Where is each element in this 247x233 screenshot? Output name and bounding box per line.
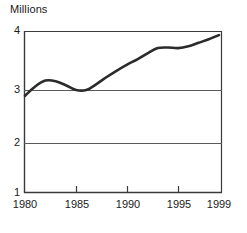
x-tick-label-1985: 1985 — [65, 199, 89, 210]
y-gridlines — [24, 91, 222, 144]
data-series-line — [25, 35, 219, 96]
x-tick-label-1999: 1999 — [207, 199, 231, 210]
x-tick-label-1980: 1980 — [13, 199, 37, 210]
x-tick-label-1990: 1990 — [116, 199, 140, 210]
x-tick-label-1995: 1995 — [167, 199, 191, 210]
plot-frame — [24, 31, 222, 193]
chart-container: Millions 4 3 2 1 1980 1985 1990 1995 1 — [0, 0, 247, 233]
